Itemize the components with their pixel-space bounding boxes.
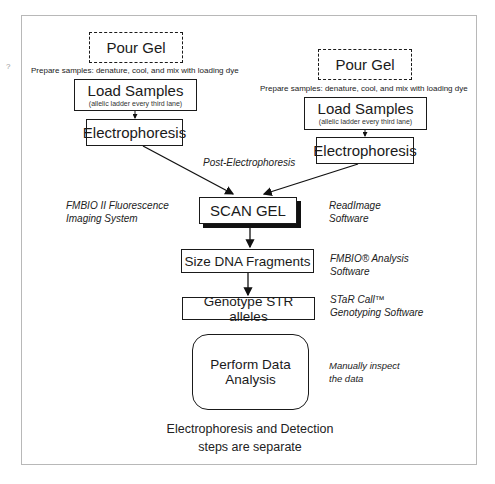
size-fragments-label: Size DNA Fragments [184, 254, 310, 269]
caption-line-1: Electrophoresis and Detection [140, 420, 360, 438]
left-load-samples-sublabel: (allelic ladder every third lane) [89, 99, 182, 108]
left-pour-gel-label: Pour Gel [106, 40, 165, 56]
caption-line-2: steps are separate [140, 438, 360, 456]
left-load-samples-label: Load Samples [88, 83, 184, 99]
fmbio-system-line-2: Imaging System [66, 212, 169, 225]
post-electrophoresis-label: Post-Electrophoresis [203, 156, 295, 169]
data-analysis-label-2: Analysis [225, 372, 275, 387]
right-pour-gel-box: Pour Gel [318, 49, 412, 80]
left-prep-note: Prepare samples: denature, cool, and mix… [31, 66, 239, 75]
right-load-samples-label: Load Samples [318, 101, 414, 117]
manual-inspect-line-1: Manually inspect [329, 359, 400, 372]
genotype-box: Genotype STR alleles [182, 297, 315, 320]
readimage-line-2: Software [329, 212, 381, 225]
manual-inspect-annotation: Manually inspect the data [329, 359, 400, 385]
readimage-annotation: ReadImage Software [329, 199, 381, 225]
left-electrophoresis-box: Electrophoresis [86, 119, 183, 146]
starcall-annotation: STaR Call™ Genotyping Software [330, 293, 423, 319]
starcall-line-2: Genotyping Software [330, 306, 423, 319]
fmbio-system-line-1: FMBIO II Fluorescence [66, 199, 169, 212]
right-prep-note: Prepare samples: denature, cool, and mix… [260, 84, 468, 93]
manual-inspect-line-2: the data [329, 372, 400, 385]
fmbio-system-annotation: FMBIO II Fluorescence Imaging System [66, 199, 169, 225]
scan-gel-label: SCAN GEL [210, 203, 286, 219]
data-analysis-box: Perform Data Analysis [192, 334, 309, 410]
fmbio-analysis-line-1: FMBIO® Analysis [330, 252, 409, 265]
data-analysis-label-1: Perform Data [210, 357, 290, 372]
left-electrophoresis-label: Electrophoresis [83, 125, 186, 141]
readimage-line-1: ReadImage [329, 199, 381, 212]
left-load-samples-box: Load Samples (allelic ladder every third… [74, 79, 197, 111]
right-electrophoresis-box: Electrophoresis [316, 137, 414, 164]
fmbio-analysis-annotation: FMBIO® Analysis Software [330, 252, 409, 278]
scan-gel-box: SCAN GEL [199, 197, 297, 224]
diagram-caption: Electrophoresis and Detection steps are … [140, 420, 360, 456]
fmbio-analysis-line-2: Software [330, 265, 409, 278]
right-load-samples-box: Load Samples (allelic ladder every third… [304, 97, 427, 130]
starcall-line-1: STaR Call™ [330, 293, 423, 306]
right-pour-gel-label: Pour Gel [335, 57, 394, 73]
right-electrophoresis-label: Electrophoresis [313, 143, 416, 159]
right-load-samples-sublabel: (allelic ladder every third lane) [319, 117, 412, 126]
genotype-label: Genotype STR alleles [183, 294, 314, 324]
size-fragments-box: Size DNA Fragments [181, 249, 314, 273]
left-pour-gel-box: Pour Gel [89, 32, 183, 63]
